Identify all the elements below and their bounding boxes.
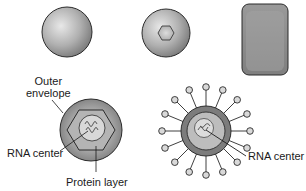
rna-center-label-left: RNA center (7, 147, 63, 159)
rna-center-label-right: RNA center (248, 150, 304, 162)
protein-layer-label: Protein layer (66, 176, 128, 188)
rod-virus (242, 4, 288, 75)
plain-sphere-virus (42, 7, 92, 57)
outer-envelope-label-line1: Outer (26, 75, 71, 87)
outer-envelope-label: Outer envelope (26, 75, 71, 99)
enveloped-virus-cross-section (52, 99, 122, 172)
spiked-virus (159, 84, 254, 179)
outer-envelope-label-line2: envelope (26, 87, 71, 99)
hexagon-sphere-virus (142, 9, 190, 57)
